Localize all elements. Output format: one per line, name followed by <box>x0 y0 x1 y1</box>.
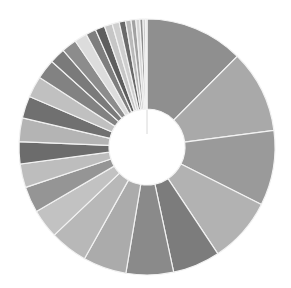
donut-chart-svg <box>0 0 291 288</box>
donut-chart <box>0 0 291 288</box>
donut-slices <box>19 19 275 275</box>
